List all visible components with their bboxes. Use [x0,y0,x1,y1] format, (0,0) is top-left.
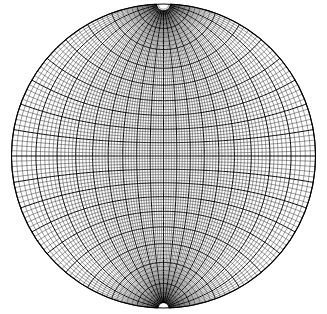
stereographic-net-svg [0,0,327,314]
wulff-net-figure [0,0,327,314]
